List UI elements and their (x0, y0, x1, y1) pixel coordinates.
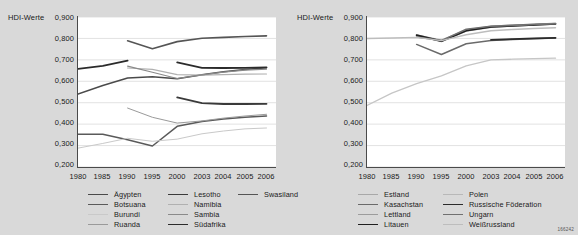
legend-swatch-icon (238, 194, 258, 195)
right-xtick-8: 2006 (543, 172, 567, 181)
legend-label: Russische Föderation (469, 200, 542, 209)
right-y-axis-line (366, 16, 367, 168)
left-xtick-4: 2000 (165, 172, 189, 181)
legend-item[interactable]: Lettland (358, 210, 411, 219)
right-plot-svg (367, 17, 565, 167)
left-xtick-8: 2006 (254, 172, 278, 181)
legend-item[interactable]: Swasiland (238, 190, 298, 199)
right-series-lines (367, 23, 556, 105)
left-xtick-0: 1980 (66, 172, 90, 181)
legend-item[interactable]: Ägypten (88, 190, 141, 199)
legend-label: Botsuana (114, 200, 146, 209)
legend-item[interactable]: Ungarn (443, 210, 494, 219)
right-plot-area (367, 17, 565, 167)
legend-swatch-icon (88, 214, 108, 215)
right-ytick-0: 0,900 (327, 13, 363, 22)
legend-item[interactable]: Weißrussland (443, 220, 515, 229)
left-ytick-7: 0,200 (38, 160, 74, 169)
legend-label: Litauen (384, 220, 409, 229)
legend-label: Kasachstan (384, 200, 423, 209)
series-line-russische-f-deration (491, 38, 556, 40)
left-xtick-1: 1985 (90, 172, 114, 181)
legend-swatch-icon (358, 194, 378, 195)
legend-item[interactable]: Sambia (168, 210, 219, 219)
right-xtick-1: 1985 (379, 172, 403, 181)
left-ytick-6: 0,300 (38, 139, 74, 148)
right-ytick-7: 0,200 (327, 160, 363, 169)
legend-swatch-icon (358, 214, 378, 215)
right-ytick-6: 0,300 (327, 139, 363, 148)
legend-label: Ägypten (114, 190, 141, 199)
left-ytick-2: 0,700 (38, 55, 74, 64)
legend-item[interactable]: Namibia (168, 200, 221, 209)
figure-code: 166242 (557, 227, 574, 232)
left-xtick-6: 2004 (211, 172, 235, 181)
series-line--gypten (78, 68, 267, 94)
legend-swatch-icon (358, 224, 378, 225)
right-ytick-3: 0,600 (327, 76, 363, 85)
legend-label: Ungarn (469, 210, 494, 219)
legend-swatch-icon (358, 204, 378, 205)
series-line-s-dafrika (177, 62, 266, 68)
legend-label: Estland (384, 190, 409, 199)
right-gridlines (367, 17, 565, 167)
legend-label: Lesotho (194, 190, 221, 199)
legend-swatch-icon (88, 204, 108, 205)
right-ytick-1: 0,800 (327, 34, 363, 43)
legend-item[interactable]: Botsuana (88, 200, 146, 209)
left-xtick-3: 1995 (140, 172, 164, 181)
left-ytick-3: 0,600 (38, 76, 74, 85)
left-series-lines (78, 36, 267, 148)
legend-swatch-icon (168, 224, 188, 225)
left-ytick-5: 0,400 (38, 118, 74, 127)
legend-item[interactable]: Kasachstan (358, 200, 423, 209)
series-line-swasiland (128, 36, 267, 49)
legend-item[interactable]: Burundi (88, 210, 140, 219)
legend-swatch-icon (443, 224, 463, 225)
legend-swatch-icon (168, 214, 188, 215)
left-ytick-1: 0,800 (38, 34, 74, 43)
legend-swatch-icon (168, 194, 188, 195)
legend-item[interactable]: Litauen (358, 220, 409, 229)
figure-root: HDI-Werte 0,900 0,800 0,700 0,600 0,500 … (0, 0, 578, 235)
right-xtick-0: 1980 (355, 172, 379, 181)
legend-label: Südafrika (194, 220, 226, 229)
right-xtick-4: 2000 (454, 172, 478, 181)
right-x-axis-line (366, 167, 565, 168)
legend-label: Namibia (194, 200, 221, 209)
legend-item[interactable]: Estland (358, 190, 409, 199)
legend-item[interactable]: Polen (443, 190, 488, 199)
legend-label: Swasiland (264, 190, 298, 199)
legend-label: Polen (469, 190, 488, 199)
left-plot-svg (78, 17, 276, 167)
left-gridlines (78, 17, 276, 167)
legend-item[interactable]: Lesotho (168, 190, 221, 199)
legend-swatch-icon (168, 204, 188, 205)
legend-swatch-icon (443, 214, 463, 215)
left-ytick-4: 0,500 (38, 97, 74, 106)
series-line-aux-low (367, 58, 556, 105)
legend-item[interactable]: Ruanda (88, 220, 140, 229)
legend-label: Lettland (384, 210, 411, 219)
left-plot-area (78, 17, 276, 167)
right-xtick-2: 1990 (404, 172, 428, 181)
right-ytick-5: 0,400 (327, 118, 363, 127)
series-line-ruanda (128, 108, 267, 123)
left-ytick-0: 0,900 (38, 13, 74, 22)
legend-item[interactable]: Russische Föderation (443, 200, 542, 209)
legend-swatch-icon (443, 204, 463, 205)
right-ytick-4: 0,500 (327, 97, 363, 106)
series-line-s-dafrika (78, 61, 128, 69)
legend-item[interactable]: Südafrika (168, 220, 226, 229)
legend-swatch-icon (88, 224, 108, 225)
legend-label: Ruanda (114, 220, 140, 229)
legend-swatch-icon (88, 194, 108, 195)
legend-label: Sambia (194, 210, 219, 219)
legend-swatch-icon (443, 194, 463, 195)
right-ytick-2: 0,700 (327, 55, 363, 64)
left-y-axis-line (77, 16, 78, 168)
right-xtick-6: 2004 (500, 172, 524, 181)
series-line-botsuana (78, 116, 267, 146)
left-xtick-2: 1990 (115, 172, 139, 181)
legend-label: Weißrussland (469, 220, 515, 229)
